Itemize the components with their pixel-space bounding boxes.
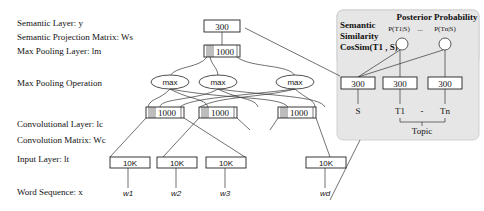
panel-box-t1-value: 300 <box>393 79 407 89</box>
semantic-layer-value: 300 <box>215 22 229 32</box>
panel-box-s-value: 300 <box>351 79 365 89</box>
tn-label: Tn <box>440 106 450 116</box>
conv-box-1-value: 1000 <box>158 108 177 118</box>
label-conv-matrix: Convolution Matrix: Wc <box>17 135 106 145</box>
topic-dash: - <box>421 106 424 116</box>
label-max-pooling-op: Max Pooling Operation <box>17 78 102 88</box>
word-w1: w1 <box>123 189 133 198</box>
topic-label: Topic <box>412 126 432 136</box>
conv-box-3-value: 1000 <box>290 108 309 118</box>
panel-box-tn-value: 300 <box>438 79 452 89</box>
posterior-node-n <box>439 38 451 50</box>
prob-right: P(Tn|S) <box>434 25 456 33</box>
label-input-layer: Input Layer: lt <box>17 154 69 164</box>
input-box-2-value: 10K <box>170 159 185 168</box>
similarity-label-3: CosSim(T1 , S) <box>340 42 398 52</box>
label-semantic-layer: Semantic Layer: y <box>17 18 83 28</box>
conv-box-2-value: 1000 <box>211 108 230 118</box>
similarity-label-2: Similarity <box>340 31 379 41</box>
prob-separator: ... <box>417 25 423 33</box>
curve-pool-max3 <box>237 57 295 76</box>
input-box-4-value: 10K <box>319 159 334 168</box>
connector-bottom <box>330 140 360 200</box>
word-w3: w3 <box>220 189 231 198</box>
label-projection-matrix: Semantic Projection Matrix: Ws <box>17 32 134 42</box>
pool-layer-value: 1000 <box>216 47 235 57</box>
connector-top <box>245 28 340 76</box>
max-op-3-label: max <box>287 78 302 87</box>
max-op-2-label: max <box>210 78 225 87</box>
s-label: S <box>355 106 360 116</box>
t1-label: T1 <box>395 106 405 116</box>
prob-left: P(T1|S) <box>388 25 410 33</box>
input-box-3-value: 10K <box>219 159 234 168</box>
word-wd: wd <box>320 189 331 198</box>
input-box-1-value: 10K <box>123 159 138 168</box>
curve-pool-max2 <box>210 57 218 76</box>
label-word-sequence: Word Sequence: x <box>17 187 83 197</box>
max-op-1-label: max <box>162 78 177 87</box>
word-w2: w2 <box>171 189 182 198</box>
dssm-diagram: Semantic Layer: y Semantic Projection Ma… <box>0 0 484 211</box>
posterior-probability-title: Posterior Probability <box>397 12 478 22</box>
posterior-node-1 <box>396 38 408 50</box>
label-conv-layer: Convolutional Layer: lc <box>17 119 103 129</box>
conv-to-input-lines <box>110 118 330 157</box>
max-to-conv-curves <box>148 89 325 107</box>
label-max-pooling-layer: Max Pooling Layer: lm <box>17 46 101 56</box>
curve-pool-max1 <box>170 57 207 76</box>
similarity-label-1: Semantic <box>340 20 376 30</box>
word-lines <box>128 168 325 188</box>
